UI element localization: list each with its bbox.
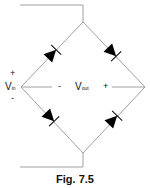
figure-caption: Fig. 7.5: [0, 173, 150, 185]
output-voltage-label: Vout: [75, 82, 89, 92]
input-voltage-label: Vin: [5, 82, 16, 92]
input-minus-label: -: [11, 94, 14, 103]
input-plus-label: +: [10, 69, 15, 78]
bottom-input-wire: [20, 153, 83, 167]
top-input-wire: [20, 5, 83, 22]
output-plus-label: +: [103, 82, 108, 91]
output-minus-label: -: [58, 82, 61, 91]
bridge-rectifier-diagram: [0, 0, 150, 188]
